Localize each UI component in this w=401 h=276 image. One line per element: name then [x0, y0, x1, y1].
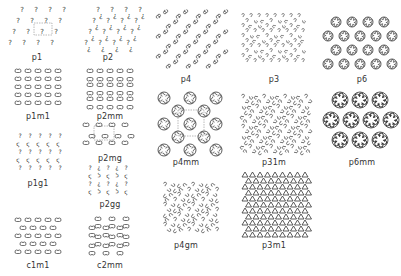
svg-text:?: ?: [28, 148, 31, 155]
label-p3: p3: [269, 75, 280, 84]
svg-text:?: ?: [20, 6, 24, 14]
svg-text:ς: ς: [97, 172, 101, 180]
svg-text:?: ?: [54, 28, 58, 36]
svg-text:?: ?: [8, 39, 12, 47]
svg-text:?: ?: [129, 45, 133, 53]
svg-text:?: ?: [127, 12, 131, 20]
svg-text:?: ?: [88, 164, 91, 171]
svg-text:?: ?: [12, 28, 16, 36]
svg-text:ς: ς: [124, 188, 128, 196]
svg-text:?: ?: [97, 165, 100, 172]
svg-text:?: ?: [58, 17, 62, 25]
svg-text:?: ?: [113, 12, 117, 20]
svg-text:?: ?: [28, 164, 31, 171]
svg-text:?: ?: [44, 17, 48, 25]
svg-text:?: ?: [26, 28, 30, 36]
pattern-p4: [156, 10, 228, 69]
label-p6mm: p6mm: [349, 158, 376, 167]
pattern-p3: [242, 14, 306, 63]
label-c2mm: c2mm: [97, 261, 123, 270]
pattern-p1m1: [15, 69, 61, 105]
svg-text:ς: ς: [115, 188, 119, 196]
svg-text:ς: ς: [46, 156, 50, 164]
svg-text:ς: ς: [115, 172, 119, 180]
svg-text:?: ?: [141, 12, 145, 20]
svg-text:?: ?: [48, 132, 51, 139]
svg-text:?: ?: [109, 23, 113, 31]
svg-text:ς: ς: [106, 188, 110, 196]
svg-text:?: ?: [22, 39, 26, 47]
svg-text:?: ?: [58, 132, 61, 139]
label-p2gg: p2gg: [99, 200, 120, 209]
pattern-p2mg: [83, 123, 134, 145]
svg-text:ς: ς: [106, 172, 110, 180]
svg-text:?: ?: [106, 164, 109, 171]
label-c1m1: c1m1: [26, 261, 49, 270]
pattern-p1: ????????????????: [8, 6, 66, 47]
svg-text:ς: ς: [16, 156, 20, 164]
pattern-p4gm: [163, 182, 218, 233]
svg-text:ς: ς: [26, 156, 30, 164]
svg-text:ς: ς: [88, 188, 92, 196]
label-p4: p4: [181, 75, 192, 84]
pattern-p3m1: [242, 172, 312, 237]
pattern-p1g1: ?????ςςςςς?????ςςςςς?????: [16, 132, 61, 171]
svg-text:?: ?: [133, 34, 137, 42]
svg-text:?: ?: [58, 148, 61, 155]
pattern-c2mm: [89, 217, 129, 255]
svg-text:ς: ς: [88, 172, 92, 180]
svg-text:?: ?: [124, 180, 127, 187]
svg-text:?: ?: [34, 6, 38, 14]
svg-text:ς: ς: [46, 140, 50, 148]
svg-text:ς: ς: [56, 156, 60, 164]
svg-text:?: ?: [137, 23, 141, 31]
pattern-p2mm: [87, 69, 133, 109]
svg-text:?: ?: [58, 164, 61, 171]
svg-text:?: ?: [36, 39, 40, 47]
pattern-p31m: [240, 94, 312, 155]
svg-text:?: ?: [115, 45, 119, 53]
pattern-p6: [323, 17, 397, 69]
svg-text:?: ?: [62, 6, 66, 14]
svg-text:?: ?: [95, 23, 99, 31]
svg-text:ς: ς: [16, 140, 20, 148]
svg-text:?: ?: [124, 164, 127, 171]
svg-text:?: ?: [115, 181, 118, 188]
pattern-p6mm: [323, 92, 399, 148]
svg-text:?: ?: [115, 165, 118, 172]
svg-text:?: ?: [18, 132, 21, 139]
svg-text:?: ?: [38, 132, 41, 139]
svg-text:?: ?: [91, 34, 95, 42]
label-p3m1: p3m1: [262, 241, 286, 250]
svg-text:ς: ς: [36, 156, 40, 164]
pattern-p4mm: [158, 92, 222, 156]
label-p1m1: p1m1: [26, 112, 50, 121]
svg-text:?: ?: [119, 34, 123, 42]
svg-text:?: ?: [38, 148, 41, 155]
svg-text:ς: ς: [56, 140, 60, 148]
svg-text:?: ?: [99, 12, 103, 20]
svg-text:?: ?: [87, 45, 91, 53]
svg-text:?: ?: [106, 180, 109, 187]
pattern-p2gg: ?????ςςςςς?????ςςςςς: [88, 164, 128, 196]
svg-text:?: ?: [101, 45, 105, 53]
label-p2mm: p2mm: [97, 112, 124, 121]
svg-text:?: ?: [48, 6, 52, 14]
svg-text:ς: ς: [124, 172, 128, 180]
svg-text:?: ?: [16, 17, 20, 25]
pattern-c1m1: [15, 218, 61, 254]
svg-text:?: ?: [88, 180, 91, 187]
svg-text:?: ?: [123, 23, 127, 31]
label-p2mg: p2mg: [98, 154, 122, 163]
label-p4gm: p4gm: [174, 241, 198, 250]
svg-text:?: ?: [28, 132, 31, 139]
label-p1g1: p1g1: [27, 179, 48, 188]
label-p1: p1: [32, 53, 43, 62]
svg-text:ς: ς: [26, 140, 30, 148]
svg-text:?: ?: [105, 34, 109, 42]
label-p31m: p31m: [262, 158, 286, 167]
svg-text:?: ?: [97, 181, 100, 188]
label-p2: p2: [103, 53, 114, 62]
svg-text:?: ?: [48, 164, 51, 171]
svg-text:ς: ς: [36, 140, 40, 148]
